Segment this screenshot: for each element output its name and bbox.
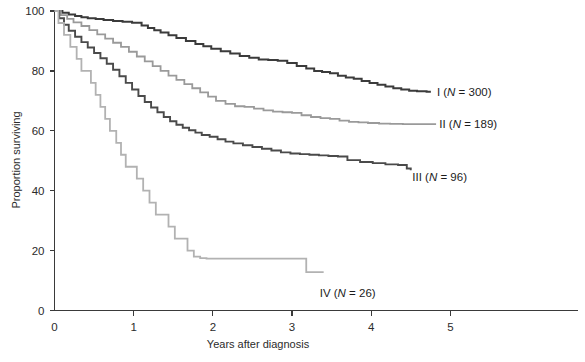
x-tick-label: 1 xyxy=(130,321,136,333)
y-tick-label: 40 xyxy=(32,185,45,197)
y-tick-label: 20 xyxy=(32,245,45,257)
series-label-iii: III (N = 96) xyxy=(412,171,467,183)
series-labels-layer: I (N = 300)II (N = 189)III (N = 96)IV (N… xyxy=(320,86,498,299)
y-tick-label: 80 xyxy=(32,65,45,77)
x-tick-label: 4 xyxy=(368,321,375,333)
y-axis-title: Proportion surviving xyxy=(10,111,22,208)
x-axis-group: 012345 Years after diagnosis xyxy=(51,306,578,351)
y-tick-label: 0 xyxy=(38,305,44,317)
series-label-i: I (N = 300) xyxy=(437,86,492,98)
x-tick-label: 2 xyxy=(210,321,216,333)
y-tick-label: 100 xyxy=(25,5,44,17)
x-tick-label: 5 xyxy=(447,321,453,333)
x-axis-title: Years after diagnosis xyxy=(207,338,310,350)
series-label-iv: IV (N = 26) xyxy=(320,287,376,299)
y-axis-group: 020406080100 Proportion surviving xyxy=(10,5,55,317)
x-axis-ticks: 012345 xyxy=(51,306,453,333)
survival-curve-i xyxy=(55,11,431,92)
survival-curve-iii xyxy=(55,11,411,170)
x-tick-label: 0 xyxy=(51,321,57,333)
kaplan-meier-plot: 020406080100 Proportion surviving 012345… xyxy=(0,0,585,362)
series-curves-layer xyxy=(55,11,437,272)
series-label-ii: II (N = 189) xyxy=(439,118,497,130)
survival-curve-ii xyxy=(55,11,437,124)
y-tick-label: 60 xyxy=(32,125,45,137)
y-axis-ticks: 020406080100 xyxy=(25,5,54,317)
survival-chart: 020406080100 Proportion surviving 012345… xyxy=(0,0,585,362)
x-tick-label: 3 xyxy=(289,321,295,333)
